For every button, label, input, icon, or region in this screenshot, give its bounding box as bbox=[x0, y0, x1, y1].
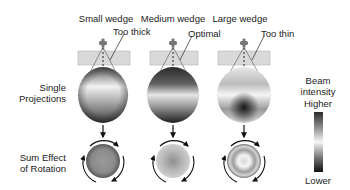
legend-high-label: Higher bbox=[304, 98, 332, 109]
row-label-line: Single bbox=[8, 82, 66, 93]
xray-source-icon bbox=[169, 39, 177, 48]
xray-source-icon bbox=[240, 39, 248, 48]
row-label-single-projections: Single Projections bbox=[8, 82, 66, 104]
single-projection-circle bbox=[147, 67, 199, 123]
sum-circle bbox=[86, 144, 120, 178]
sum-circle bbox=[156, 144, 190, 178]
annotation-too-thin: Too thin bbox=[261, 28, 294, 39]
column-title-medium-wedge: Medium wedge bbox=[141, 13, 205, 24]
column-title-small-wedge: Small wedge bbox=[79, 13, 133, 24]
column-title-large-wedge: Large wedge bbox=[213, 13, 268, 24]
legend-title: Beam intensity bbox=[301, 75, 336, 97]
legend-title-line: intensity bbox=[301, 86, 336, 97]
legend-title-line: Beam bbox=[301, 75, 336, 86]
sum-circle bbox=[227, 144, 261, 178]
xray-source-icon bbox=[99, 39, 107, 48]
column-medium-wedge bbox=[147, 36, 199, 182]
column-small-wedge bbox=[78, 34, 130, 182]
row-label-sum-effect: Sum Effect of Rotation bbox=[8, 152, 66, 174]
row-label-line: Sum Effect bbox=[8, 152, 66, 163]
annotation-too-thick: Too thick bbox=[113, 26, 151, 37]
row-label-line: of Rotation bbox=[8, 163, 66, 174]
column-large-wedge bbox=[217, 36, 271, 182]
intensity-scale-bar bbox=[314, 112, 323, 172]
row-label-line: Projections bbox=[8, 93, 66, 104]
wedge-filter bbox=[78, 51, 130, 65]
annotation-optimal: Optimal bbox=[188, 28, 221, 39]
wedge-filter bbox=[150, 51, 198, 65]
single-projection-circle bbox=[217, 67, 271, 123]
single-projection-circle bbox=[78, 67, 128, 123]
legend-low-label: Lower bbox=[305, 175, 331, 186]
